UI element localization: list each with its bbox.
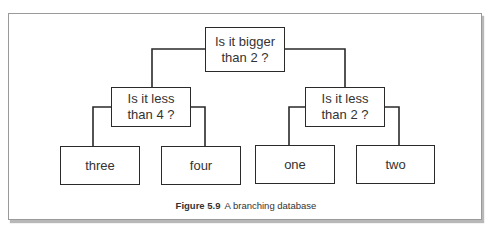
leaf-node-one: one: [255, 145, 335, 184]
left-question-node: Is it less than 4 ?: [111, 87, 191, 127]
root-question-label: Is it bigger than 2 ?: [215, 34, 275, 66]
left-question-label: Is it less than 4 ?: [128, 91, 175, 123]
connector-left-four: [191, 107, 205, 146]
connector-right-one: [289, 107, 305, 145]
leaf-label: four: [190, 158, 212, 174]
right-question-label: Is it less than 2 ?: [322, 91, 369, 123]
leaf-node-four: four: [161, 146, 241, 185]
connector-right-two: [385, 107, 399, 145]
leaf-label: one: [284, 157, 306, 173]
connector-left-three: [93, 107, 111, 146]
right-question-node: Is it less than 2 ?: [305, 87, 385, 127]
leaf-label: two: [385, 157, 405, 173]
connector-root-right: [284, 49, 345, 87]
leaf-label: three: [85, 158, 115, 174]
figure-caption-text: A branching database: [224, 200, 316, 211]
connector-root-left: [152, 49, 205, 87]
root-question-node: Is it bigger than 2 ?: [205, 27, 285, 72]
figure-caption-label: Figure 5.9: [176, 200, 221, 211]
figure-caption: Figure 5.9A branching database: [0, 200, 492, 211]
leaf-node-two: two: [356, 145, 435, 184]
leaf-node-three: three: [60, 146, 140, 185]
